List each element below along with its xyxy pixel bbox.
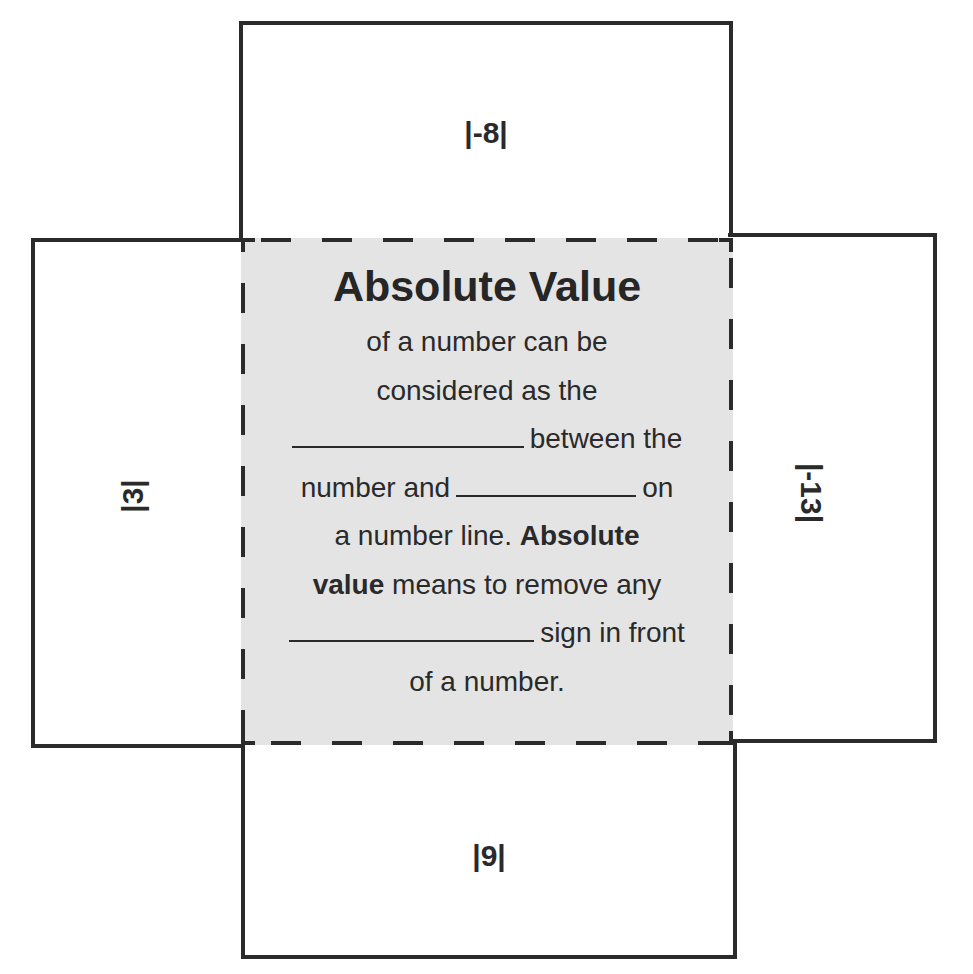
definition-line-5: a number line. Absolute xyxy=(241,512,733,561)
line-5-bold-term: Absolute xyxy=(520,520,640,551)
flap-left: |3| xyxy=(31,238,245,748)
flap-top-label: |-8| xyxy=(464,116,507,150)
flap-right-label: |-13| xyxy=(794,463,828,523)
definition-text: Absolute Value of a number can be consid… xyxy=(241,260,733,706)
fill-in-blank-2[interactable] xyxy=(456,469,636,497)
line-3-text: between the xyxy=(530,423,683,454)
definition-line-3: between the xyxy=(241,415,733,464)
line-4-text-end: on xyxy=(642,472,673,503)
line-6-bold-term: value xyxy=(313,569,385,600)
definition-line-2: considered as the xyxy=(241,367,733,416)
definition-body: of a number can be considered as the bet… xyxy=(241,318,733,706)
flap-left-label: |3| xyxy=(116,479,150,512)
flap-bottom-label: |9| xyxy=(472,839,505,873)
center-definition-panel: Absolute Value of a number can be consid… xyxy=(241,238,733,745)
definition-line-1: of a number can be xyxy=(241,318,733,367)
line-7-text: sign in front xyxy=(540,617,685,648)
definition-line-4: number andon xyxy=(241,464,733,513)
definition-line-6: value means to remove any xyxy=(241,561,733,610)
definition-line-8: of a number. xyxy=(241,658,733,707)
fill-in-blank-3[interactable] xyxy=(289,614,534,642)
flap-right: |-13| xyxy=(728,233,937,743)
flap-top: |-8| xyxy=(239,21,733,242)
definition-line-7: sign in front xyxy=(241,609,733,658)
fill-in-blank-1[interactable] xyxy=(292,420,524,448)
line-5-text: a number line. xyxy=(335,520,512,551)
flap-bottom: |9| xyxy=(241,743,737,959)
line-4-text-start: number and xyxy=(301,472,450,503)
definition-title: Absolute Value xyxy=(241,260,733,312)
line-6-text: means to remove any xyxy=(392,569,661,600)
